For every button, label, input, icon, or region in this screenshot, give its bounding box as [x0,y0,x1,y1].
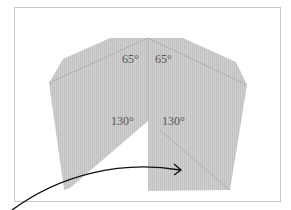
angle-label-top-left: 65° [122,52,139,66]
angle-label-middle-right: 130° [162,114,185,128]
angle-label-middle-left: 130° [111,114,134,128]
folding-diagram: 65° 65° 130° 130° [0,0,291,210]
angle-label-top-right: 65° [155,52,172,66]
